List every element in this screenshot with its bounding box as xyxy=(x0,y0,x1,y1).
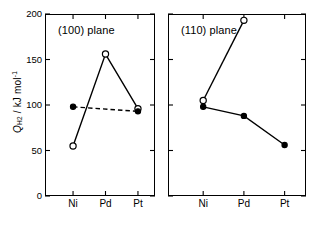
data-point-filled-circle xyxy=(201,104,206,109)
data-point-filled-circle xyxy=(241,113,246,118)
series-line-open-circle-series xyxy=(73,54,138,146)
figure-root: QH2 / kJ mol-1 050100150200 (100) plane … xyxy=(0,0,314,239)
data-point-open-circle xyxy=(70,143,76,149)
data-point-open-circle xyxy=(200,97,206,103)
data-point-filled-circle xyxy=(70,104,75,109)
data-point-filled-circle xyxy=(282,142,287,147)
plot-canvas xyxy=(0,0,314,239)
series-line-filled-circle-series xyxy=(203,107,284,145)
data-point-filled-circle xyxy=(135,109,140,114)
data-point-open-circle xyxy=(102,51,108,57)
data-point-open-circle xyxy=(241,17,247,23)
series-line-open-circle-series xyxy=(203,20,244,100)
series-line-filled-circle-series xyxy=(73,107,138,112)
